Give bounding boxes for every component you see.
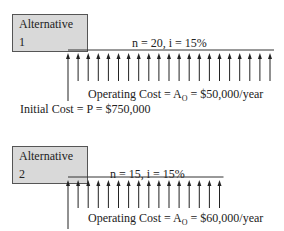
cash-flow-diagram [0,0,284,231]
